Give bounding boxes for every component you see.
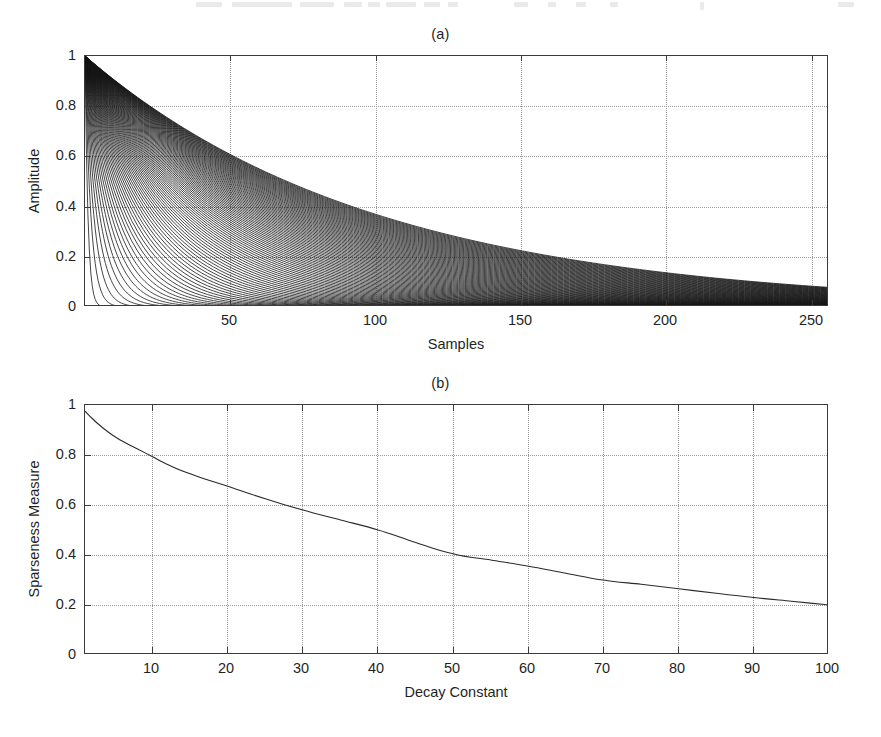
tickmark-y-0.8 (85, 106, 90, 107)
panel-b-title: (b) (0, 375, 881, 391)
tickmark-b-x-50 (453, 647, 454, 653)
tickmark-b-x-40 (377, 647, 378, 653)
panel-b-xtick-6: 70 (594, 660, 610, 676)
panel-a-curve-family (85, 56, 828, 306)
tickmark-x-50-top (230, 56, 231, 61)
panel-b-ytick-0: 0 (44, 646, 76, 662)
tickmark-b-x-30 (302, 647, 303, 653)
tickmark-x-150-top (521, 56, 522, 61)
tickmark-y-0.6 (85, 156, 90, 157)
panel-b-curve (85, 405, 828, 654)
tickmark-x-100-top (376, 56, 377, 61)
panel-a-ytick-0: 0 (44, 298, 76, 314)
panel-b-xtick-8: 90 (744, 660, 760, 676)
tickmark-x-150 (521, 300, 522, 305)
panel-a-xtick-1: 100 (363, 312, 387, 328)
panel-b-ylabel: Sparseness Measure (26, 460, 42, 597)
tickmark-b-y-0.6 (85, 505, 91, 506)
tickmark-x-250 (812, 300, 813, 305)
tickmark-b-x-10 (152, 647, 153, 653)
panel-a-title: (a) (0, 26, 881, 42)
panel-a-xtick-3: 200 (653, 312, 677, 328)
panel-a-xlabel: Samples (428, 336, 484, 352)
tickmark-b-x-20 (227, 647, 228, 653)
panel-a-xtick-4: 250 (799, 312, 823, 328)
panel-a-xtick-2: 150 (508, 312, 532, 328)
panel-b-xtick-9: 100 (815, 660, 839, 676)
tickmark-b-x-80 (678, 647, 679, 653)
tickmark-y-0.4 (85, 207, 90, 208)
tickmark-x-200 (666, 300, 667, 305)
tickmark-b-x-20-top (227, 405, 228, 411)
tickmark-b-y-0.2 (85, 605, 91, 606)
tickmark-b-x-80-top (678, 405, 679, 411)
tickmark-y-0.2 (85, 257, 90, 258)
panel-a-ytick-4: 0.8 (44, 97, 76, 113)
panel-b-plot-area (84, 404, 828, 654)
tickmark-x-200-top (666, 56, 667, 61)
panel-b: (b) (0, 370, 881, 737)
panel-a-ytick-5: 1 (44, 47, 76, 63)
panel-b-ytick-3: 0.6 (44, 496, 76, 512)
panel-b-xtick-3: 40 (368, 660, 384, 676)
panel-b-xtick-1: 20 (218, 660, 234, 676)
tickmark-b-y-0.8 (85, 455, 91, 456)
tickmark-b-x-90-top (753, 405, 754, 411)
tickmark-b-x-60-top (528, 405, 529, 411)
tickmark-b-x-30-top (302, 405, 303, 411)
tickmark-b-x-50-top (453, 405, 454, 411)
tickmark-b-x-90 (753, 647, 754, 653)
tickmark-b-x-10-top (152, 405, 153, 411)
panel-a-xtick-0: 50 (221, 312, 237, 328)
tickmark-x-250-top (812, 56, 813, 61)
panel-b-ytick-1: 0.2 (44, 596, 76, 612)
panel-b-xtick-5: 60 (519, 660, 535, 676)
panel-b-xtick-7: 80 (669, 660, 685, 676)
panel-a-ytick-2: 0.4 (44, 198, 76, 214)
panel-a: (a) (0, 0, 881, 380)
panel-a-ytick-3: 0.6 (44, 147, 76, 163)
tickmark-b-y-0.4 (85, 555, 91, 556)
tickmark-b-x-70 (603, 647, 604, 653)
figure-page: (a) (0, 0, 881, 737)
panel-a-ylabel: Amplitude (26, 149, 42, 213)
panel-b-ytick-2: 0.4 (44, 546, 76, 562)
tickmark-b-x-60 (528, 647, 529, 653)
panel-b-xlabel: Decay Constant (404, 684, 507, 700)
panel-a-ytick-1: 0.2 (44, 248, 76, 264)
tickmark-b-x-40-top (377, 405, 378, 411)
panel-b-xtick-4: 50 (444, 660, 460, 676)
tickmark-x-100 (376, 300, 377, 305)
panel-b-xtick-0: 10 (143, 660, 159, 676)
panel-b-xtick-2: 30 (293, 660, 309, 676)
panel-a-plot-area (84, 55, 828, 306)
panel-b-ytick-5: 1 (44, 396, 76, 412)
tickmark-x-50 (230, 300, 231, 305)
panel-b-ytick-4: 0.8 (44, 446, 76, 462)
tickmark-b-x-70-top (603, 405, 604, 411)
